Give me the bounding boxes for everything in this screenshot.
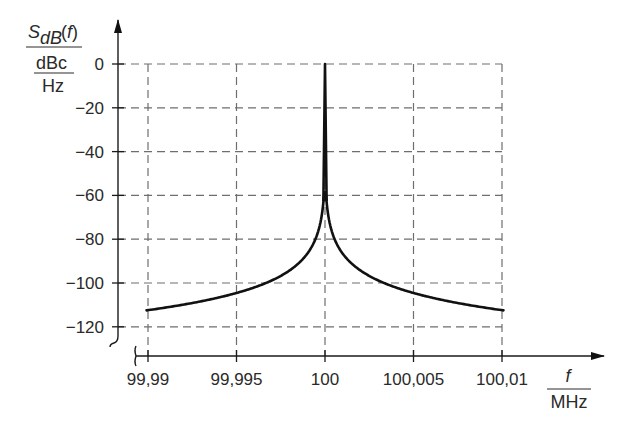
y-label-unit-bottom: Hz xyxy=(42,76,64,96)
grid xyxy=(118,64,502,356)
phase-noise-chart: 0−20−40−60−80−100−120 99,9999,995100100,… xyxy=(0,0,634,429)
spectrum-curve-right xyxy=(326,200,503,311)
x-axis-label: f MHz xyxy=(547,366,591,412)
x-tick-label: 100 xyxy=(311,370,339,389)
y-label-subscript: dB xyxy=(40,28,62,48)
x-tick-label: 99,995 xyxy=(211,370,263,389)
y-label-arg: (f) xyxy=(61,22,78,42)
y-tick-label: −120 xyxy=(66,318,104,337)
x-axis-break-icon xyxy=(135,346,136,366)
x-tick-label: 100,01 xyxy=(476,370,528,389)
y-tick-label: −80 xyxy=(75,230,104,249)
y-axis-label: S dB (f) dBc Hz xyxy=(26,22,82,96)
spectrum-curve-left xyxy=(147,200,324,311)
y-tick-label: −100 xyxy=(66,274,104,293)
y-tick-label: 0 xyxy=(95,55,104,74)
x-label-symbol: f xyxy=(565,366,572,386)
y-axis-break-icon xyxy=(110,336,118,347)
y-label-symbol: S xyxy=(28,22,40,42)
x-axis xyxy=(135,346,604,366)
carrier-spike xyxy=(323,64,326,200)
x-tick-label: 99,99 xyxy=(127,370,170,389)
y-tick-label: −20 xyxy=(75,99,104,118)
y-ticks: 0−20−40−60−80−100−120 xyxy=(66,55,124,337)
x-tick-label: 100,005 xyxy=(383,370,444,389)
y-label-unit-top: dBc xyxy=(36,53,67,73)
y-axis xyxy=(110,20,118,347)
y-tick-label: −40 xyxy=(75,143,104,162)
y-tick-label: −60 xyxy=(75,186,104,205)
spike-base xyxy=(324,192,327,200)
x-label-unit: MHz xyxy=(551,392,588,412)
